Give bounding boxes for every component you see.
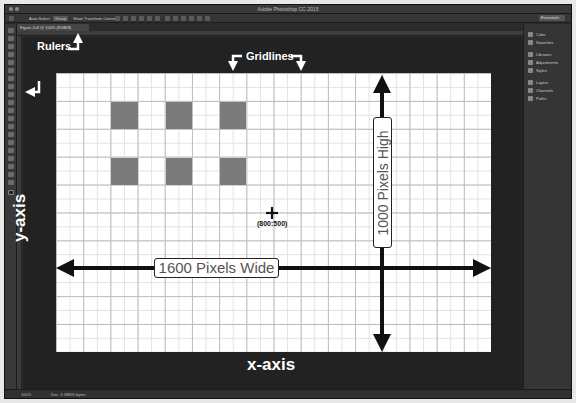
x-axis-label: x-axis	[247, 355, 295, 375]
rulers-label: Rulers	[37, 40, 71, 52]
height-label: 1000 Pixels High	[375, 130, 391, 235]
center-coordinate-label: (800:500)	[257, 220, 287, 227]
height-arrow-head-bottom	[373, 334, 391, 352]
gridlines-arrow-left	[233, 56, 242, 66]
y-axis-label: y-axis	[10, 194, 30, 242]
rulers-arrow-left	[30, 81, 39, 92]
center-crosshair-icon	[266, 207, 278, 219]
height-label-box: 1000 Pixels High	[373, 117, 392, 248]
height-arrow-head-top	[373, 75, 391, 93]
width-arrow-head-left	[56, 259, 74, 277]
width-arrow-head-right	[473, 259, 491, 277]
width-label: 1600 Pixels Wide	[154, 258, 279, 278]
gridlines-label: Gridlines	[246, 50, 294, 62]
